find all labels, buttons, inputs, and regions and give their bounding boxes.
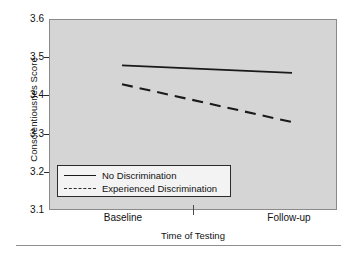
x-axis-title: Time of Testing bbox=[49, 230, 337, 241]
y-tick-label: 3.1 bbox=[18, 205, 44, 215]
figure: Conscientiousnes Score 3.6 3.5 3.4 3.3 3… bbox=[0, 0, 354, 257]
series-line-no-discrimination bbox=[122, 65, 292, 73]
footer-rule bbox=[16, 245, 341, 246]
y-tick-label: 3.4 bbox=[18, 90, 44, 100]
legend-entry-no-discrimination: No Discrimination bbox=[62, 169, 226, 182]
x-tick-label-baseline: Baseline bbox=[84, 212, 162, 223]
legend-label: Experienced Discrimination bbox=[102, 183, 217, 194]
chart-legend: No Discrimination Experienced Discrimina… bbox=[57, 165, 231, 197]
legend-entry-experienced-discrimination: Experienced Discrimination bbox=[62, 182, 226, 195]
y-tick-label: 3.5 bbox=[18, 52, 44, 62]
legend-swatch-dashed-line-icon bbox=[62, 183, 98, 195]
x-tick-label-followup: Follow-up bbox=[250, 212, 328, 223]
y-tick-label: 3.6 bbox=[18, 14, 44, 24]
series-line-experienced-discrimination bbox=[122, 84, 292, 122]
x-tick-mark bbox=[193, 205, 194, 215]
y-tick-label: 3.3 bbox=[18, 129, 44, 139]
legend-swatch-solid-line-icon bbox=[62, 170, 98, 182]
y-tick-label: 3.2 bbox=[18, 167, 44, 177]
y-axis-tick-labels: 3.6 3.5 3.4 3.3 3.2 3.1 bbox=[14, 0, 44, 257]
legend-label: No Discrimination bbox=[102, 170, 176, 181]
